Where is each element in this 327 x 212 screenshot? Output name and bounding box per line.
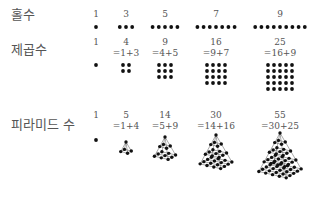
- pyramid-dot: [271, 173, 274, 176]
- odd-number-label: 5: [162, 9, 168, 19]
- odd-dot: [163, 25, 167, 29]
- square-dot: [278, 69, 282, 73]
- pyramid-dot: [220, 161, 223, 164]
- odd-dot: [208, 25, 212, 29]
- square-dot: [169, 75, 173, 79]
- square-dot: [223, 75, 227, 79]
- square-dot: [163, 75, 167, 79]
- pyramid-dot: [265, 165, 268, 168]
- square-dot: [284, 81, 288, 85]
- square-dot: [272, 81, 276, 85]
- pyramid-dot: [166, 158, 169, 161]
- pyramid-formula: =30+25: [261, 121, 299, 131]
- square-dot: [169, 63, 173, 67]
- pyramid-dot: [94, 138, 98, 142]
- pyramid-dot: [165, 147, 168, 150]
- pyramid-dot: [281, 172, 284, 175]
- square-dot: [272, 75, 276, 79]
- pyramid-dot: [226, 162, 229, 165]
- pyramid-number-label: 5: [123, 110, 129, 120]
- pyramid-dot: [278, 175, 281, 178]
- pyramid-dot: [123, 148, 126, 151]
- square-dot: [266, 87, 270, 91]
- odd-dot: [118, 25, 122, 29]
- pyramid-dot: [289, 149, 292, 152]
- square-formula: =9+7: [203, 48, 230, 58]
- pyramid-number-label: 55: [274, 110, 286, 120]
- pyramid-dot: [275, 146, 278, 149]
- row-label-odd: 홀수: [11, 7, 35, 22]
- pyramid-dot: [266, 158, 269, 161]
- pyramid-dot: [268, 151, 271, 154]
- square-number-label: 9: [162, 37, 168, 47]
- pyramid-dot: [294, 158, 297, 161]
- odd-dot: [227, 25, 231, 29]
- pyramid-dot: [271, 148, 274, 151]
- square-dot: [266, 69, 270, 73]
- square-formula: =4+5: [152, 48, 179, 58]
- square-dot: [157, 63, 161, 67]
- square-dot: [278, 63, 282, 67]
- pyramid-dot: [163, 154, 166, 157]
- pyramid-dot: [286, 164, 289, 167]
- square-dot: [217, 75, 221, 79]
- pyramid-dot: [284, 176, 287, 179]
- pyramid-dot: [209, 162, 212, 165]
- square-dot: [205, 81, 209, 85]
- odd-dot: [220, 25, 224, 29]
- pyramid-dot: [268, 163, 271, 166]
- square-dot: [217, 81, 221, 85]
- odd-dot: [284, 25, 288, 29]
- square-dot: [284, 69, 288, 73]
- pyramid-dot: [264, 171, 267, 174]
- pyramid-dot: [285, 151, 288, 154]
- pyramid-dot: [296, 169, 299, 172]
- square-dot: [272, 87, 276, 91]
- pyramid-dot: [223, 165, 226, 168]
- square-dot: [169, 69, 173, 73]
- square-dot: [266, 63, 270, 67]
- pyramid-dot: [271, 167, 274, 170]
- pyramid-dot: [119, 150, 122, 153]
- square-formula: =1+3: [113, 48, 140, 58]
- odd-dot: [272, 25, 276, 29]
- square-dot: [121, 69, 125, 73]
- odd-dot: [303, 25, 307, 29]
- odd-dot: [196, 25, 200, 29]
- pyramid-dot: [170, 155, 173, 158]
- pyramid-dot: [124, 140, 127, 143]
- square-formula: =16+9: [264, 48, 297, 58]
- square-dot: [127, 69, 131, 73]
- pyramid-dot: [280, 143, 283, 146]
- pyramid-dot: [223, 159, 226, 162]
- odd-dot: [214, 25, 218, 29]
- odd-dot: [169, 25, 173, 29]
- pyramid-dot: [213, 159, 216, 162]
- square-dot: [217, 63, 221, 67]
- pyramid-dot: [221, 153, 224, 156]
- pyramid-dot: [126, 152, 129, 155]
- square-dot: [278, 75, 282, 79]
- pyramid-dot: [214, 133, 217, 136]
- square-number-label: 1: [93, 37, 99, 47]
- square-dot: [157, 69, 161, 73]
- square-dot: [272, 63, 276, 67]
- square-dot: [284, 75, 288, 79]
- pyramid-dot: [279, 162, 282, 165]
- square-dot: [290, 69, 294, 73]
- square-dot: [163, 63, 167, 67]
- square-number-label: 4: [123, 37, 129, 47]
- pyramid-dot: [282, 148, 285, 151]
- odd-dot: [94, 25, 98, 29]
- square-dot: [223, 63, 227, 67]
- square-dot: [211, 69, 215, 73]
- square-dot: [157, 75, 161, 79]
- pyramid-dot: [278, 131, 281, 134]
- pyramid-dot: [272, 161, 275, 164]
- pyramid-dot: [284, 159, 287, 162]
- pyramid-dot: [278, 150, 281, 153]
- square-dot: [121, 63, 125, 67]
- square-dot: [217, 69, 221, 73]
- square-dot: [290, 87, 294, 91]
- pyramid-dot: [160, 150, 163, 153]
